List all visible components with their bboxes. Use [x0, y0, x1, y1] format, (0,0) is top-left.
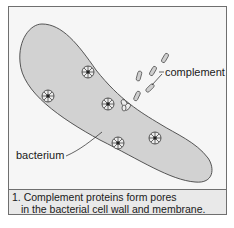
- caption-line-1: 1. Complement proteins form pores: [12, 191, 177, 203]
- pore-icon: [102, 98, 114, 110]
- pore-icon: [82, 66, 94, 78]
- caption-line-2: in the bacterial cell wall and membrane.: [12, 203, 226, 215]
- figure-caption: 1. Complement proteins form pores in the…: [8, 189, 227, 215]
- complement-proteins: [133, 53, 169, 102]
- pore-icon: [112, 137, 124, 149]
- complement-label: complement: [165, 66, 225, 78]
- pore-icon: [42, 90, 54, 102]
- bacterium-label: bacterium: [16, 149, 64, 161]
- pore-icon: [149, 132, 161, 144]
